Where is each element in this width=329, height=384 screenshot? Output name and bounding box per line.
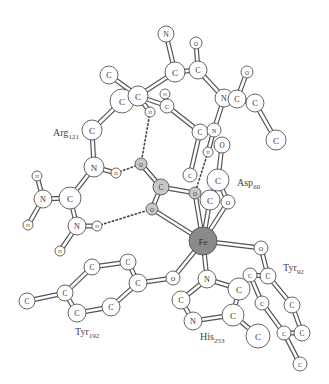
atom-c: C <box>100 66 118 84</box>
atom-symbol: C <box>106 71 111 80</box>
atom-fe: Fe <box>189 227 217 255</box>
atom-symbol: Fe <box>199 237 208 247</box>
active-site-structure: NOCCONCCCCCCHCHCNOHCCNHNCHHNHHOCOOCCOFeO… <box>0 0 329 384</box>
molecular-diagram: NOCCONCCCCCCHCHCNOHCCNHNCHHNHHOCOOCCOFeO… <box>0 0 329 384</box>
atom-o: O <box>241 66 253 78</box>
atom-symbol: H <box>163 92 167 97</box>
atom-symbol: N <box>163 31 169 39</box>
atom-symbol: C <box>135 279 140 288</box>
atom-symbol: O <box>193 191 197 197</box>
atom-h: H <box>160 89 170 99</box>
atom-symbol: C <box>165 103 169 110</box>
atom-h: H <box>23 220 33 230</box>
atom-symbol: N <box>204 275 210 284</box>
atom-symbol: C <box>255 332 261 342</box>
atom-c: C <box>59 187 81 209</box>
atom-o: O <box>135 158 147 170</box>
atom-c: C <box>294 325 310 341</box>
atom-symbol: C <box>300 330 305 338</box>
atom-symbol: C <box>260 300 264 307</box>
atom-n: N <box>184 312 202 330</box>
atom-symbol: C <box>207 196 213 206</box>
atom-symbol: C <box>108 303 113 312</box>
atom-c: C <box>246 324 270 348</box>
atom-h: H <box>32 171 42 181</box>
atom-symbol: C <box>25 298 30 306</box>
atom-symbol: C <box>266 273 271 281</box>
atom-symbol: C <box>67 194 73 204</box>
atom-symbol: N <box>221 94 227 103</box>
atom-symbol: C <box>290 302 295 310</box>
atom-o: O <box>221 195 235 209</box>
atom-o: O <box>254 241 268 255</box>
atom-symbol: H <box>206 150 210 155</box>
atom-symbol: N <box>91 163 98 173</box>
atom-h: H <box>111 168 121 178</box>
atom-symbol: C <box>90 264 95 272</box>
atom-c: C <box>153 179 169 195</box>
atom-c: C <box>260 268 276 284</box>
atom-symbol: C <box>236 285 242 295</box>
atom-symbol: C <box>252 99 257 108</box>
atom-c: C <box>207 169 229 191</box>
atom-o: O <box>166 271 180 285</box>
atom-c: C <box>19 293 35 309</box>
atom-h: H <box>203 147 213 157</box>
atom-symbol: H <box>148 110 152 115</box>
atom-symbol: O <box>171 275 176 282</box>
atom-symbol: O <box>259 245 264 252</box>
atom-symbol: C <box>234 95 239 104</box>
atom-n: N <box>34 190 52 208</box>
atom-c: C <box>102 298 120 316</box>
atom-o: O <box>190 37 202 49</box>
atom-n: N <box>198 270 216 288</box>
atom-c: C <box>266 130 286 150</box>
atom-symbol: C <box>89 126 95 136</box>
atom-c: C <box>84 259 100 275</box>
atom-c: C <box>192 124 208 140</box>
atom-c: C <box>120 254 136 270</box>
atom-symbol: C <box>230 311 236 321</box>
atom-o: O <box>189 187 201 199</box>
atom-symbol: O <box>150 207 154 213</box>
atom-c: C <box>246 94 264 112</box>
atom-c: C <box>200 190 220 210</box>
atom-symbol: O <box>245 70 249 76</box>
atom-symbol: C <box>63 290 68 298</box>
atom-symbol: N <box>190 317 196 326</box>
atom-symbol: C <box>74 309 79 318</box>
atom-symbol: C <box>159 184 164 192</box>
atom-h: H <box>92 221 102 231</box>
atom-c: C <box>243 268 257 282</box>
atom-symbol: N <box>212 127 217 134</box>
atom-symbol: C <box>126 259 131 267</box>
atom-symbol: H <box>95 224 99 229</box>
atom-n: N <box>207 123 221 137</box>
atom-symbol: O <box>139 162 143 168</box>
atom-symbol: C <box>198 129 203 137</box>
atom-c: C <box>293 357 307 371</box>
atom-c: C <box>68 304 86 322</box>
atom-symbol: C <box>188 172 192 179</box>
atom-c: C <box>189 61 207 79</box>
atom-symbol: O <box>219 142 224 150</box>
residue-label-his: His253 <box>200 331 225 345</box>
atom-c: C <box>82 120 102 140</box>
atom-c: C <box>172 291 190 309</box>
atom-symbol: C <box>215 176 221 186</box>
atom-h: H <box>55 246 65 256</box>
atom-n: N <box>84 157 104 177</box>
residue-label-arg: Arg121 <box>53 127 79 141</box>
atom-symbol: H <box>35 174 39 179</box>
atom-c: C <box>222 304 244 326</box>
atom-symbol: C <box>248 272 252 279</box>
atom-o: O <box>214 137 230 153</box>
atom-n: N <box>68 217 86 235</box>
atom-c: C <box>128 86 148 106</box>
atom-symbol: O <box>194 41 198 47</box>
atom-symbol: C <box>119 97 125 107</box>
atom-symbol: N <box>74 222 80 231</box>
atom-symbol: O <box>226 199 231 206</box>
atom-c: C <box>165 62 185 82</box>
atom-symbol: H <box>58 249 62 254</box>
